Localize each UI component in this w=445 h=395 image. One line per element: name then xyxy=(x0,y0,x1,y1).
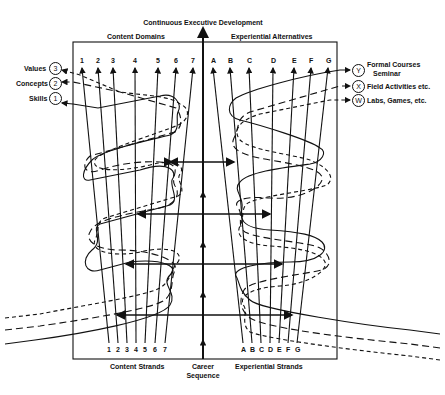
experiential-alt-a: A xyxy=(211,57,216,64)
experiential-alt-c: C xyxy=(247,57,252,64)
legend-formal-courses-label: Formal Courses xyxy=(367,61,420,68)
content-domain-3: 3 xyxy=(111,57,115,64)
experiential-alt-f: F xyxy=(309,57,313,64)
experiential-alt-g: G xyxy=(326,57,331,64)
sequence-label: Sequence xyxy=(183,372,223,379)
content-strand-3: 3 xyxy=(125,346,129,353)
content-domain-5: 5 xyxy=(156,57,160,64)
legend-y-symbol: Y xyxy=(352,64,365,77)
experiential-strand-g: G xyxy=(295,346,300,353)
legend-x-symbol: X xyxy=(352,80,365,93)
legend-values-label: Values xyxy=(24,65,46,72)
content-domain-2: 2 xyxy=(96,57,100,64)
diagram-title: Continuous Executive Development xyxy=(0,19,406,26)
legend-concepts-label: Concepts xyxy=(16,80,48,87)
content-strand-2: 2 xyxy=(116,346,120,353)
legend-values-symbol: 3 xyxy=(49,62,62,75)
legend-concepts-symbol: 2 xyxy=(49,77,62,90)
legend-seminar-label: Seminar xyxy=(373,70,401,77)
content-strand-4: 4 xyxy=(134,346,138,353)
diagram-frame xyxy=(73,42,337,359)
content-domain-7: 7 xyxy=(191,57,195,64)
content-strand-6: 6 xyxy=(153,346,157,353)
experiential-strand-a: A xyxy=(241,346,246,353)
experiential-strand-e: E xyxy=(277,346,282,353)
content-strands-label: Content Strands xyxy=(110,363,164,370)
content-domain-6: 6 xyxy=(174,57,178,64)
legend-w-symbol: W xyxy=(352,94,365,107)
experiential-strand-f: F xyxy=(286,346,290,353)
legend-skills-symbol: 1 xyxy=(49,92,62,105)
experiential-alt-b: B xyxy=(228,57,233,64)
experiential-strand-b: B xyxy=(250,346,255,353)
content-domains-label: Content Domains xyxy=(107,33,165,40)
content-strand-7: 7 xyxy=(163,346,167,353)
content-domain-1: 1 xyxy=(80,57,84,64)
legend-field-activities-label: Field Activities etc. xyxy=(367,83,430,90)
content-strand-1: 1 xyxy=(107,346,111,353)
experiential-strands-label: Experiential Strands xyxy=(235,363,303,370)
experiential-alt-e: E xyxy=(292,57,297,64)
experiential-strand-d: D xyxy=(268,346,273,353)
diagram-canvas xyxy=(0,0,445,395)
experiential-alternatives-label: Experiential Alternatives xyxy=(231,33,312,40)
career-label: Career xyxy=(183,363,223,370)
content-strand-5: 5 xyxy=(143,346,147,353)
experiential-alt-d: D xyxy=(271,57,276,64)
legend-skills-label: Skills xyxy=(29,95,47,102)
legend-labs-games-label: Labs, Games, etc. xyxy=(367,97,427,104)
experiential-strand-c: C xyxy=(259,346,264,353)
content-domain-4: 4 xyxy=(133,57,137,64)
